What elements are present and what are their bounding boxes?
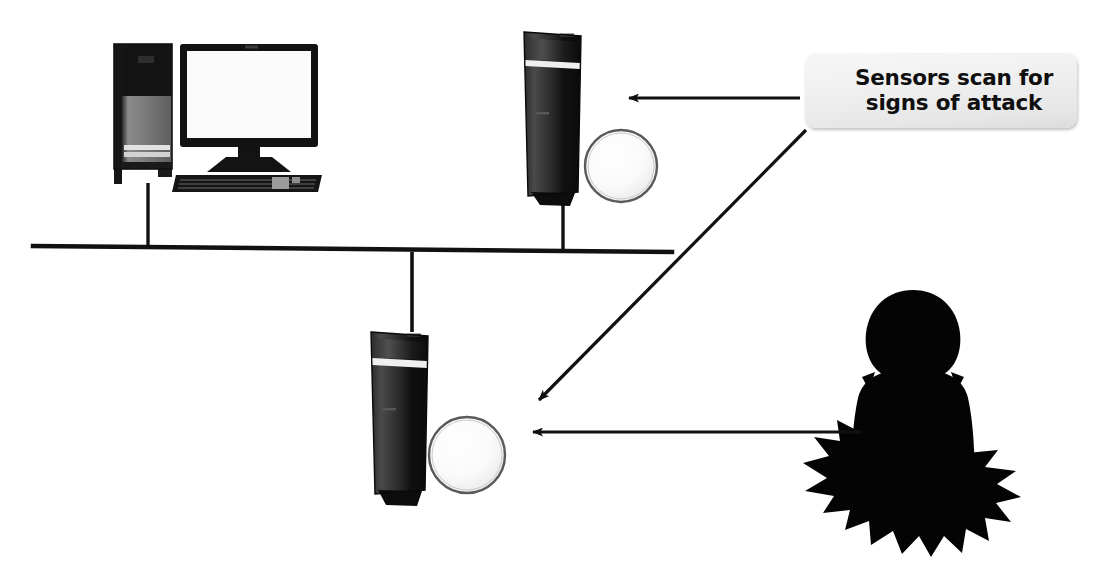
pc-tower xyxy=(114,44,172,184)
keyboard xyxy=(172,175,322,192)
diagram-canvas: Sensors scan for signs of attack xyxy=(0,0,1104,579)
sensor-lower xyxy=(371,332,505,506)
callout-label: Sensors scan for signs of attack xyxy=(829,65,1053,117)
callout-box: Sensors scan for signs of attack xyxy=(805,53,1077,128)
network-backbone xyxy=(33,183,672,332)
attacker xyxy=(803,290,1021,557)
sensor-upper xyxy=(524,32,657,206)
monitor xyxy=(180,44,318,172)
